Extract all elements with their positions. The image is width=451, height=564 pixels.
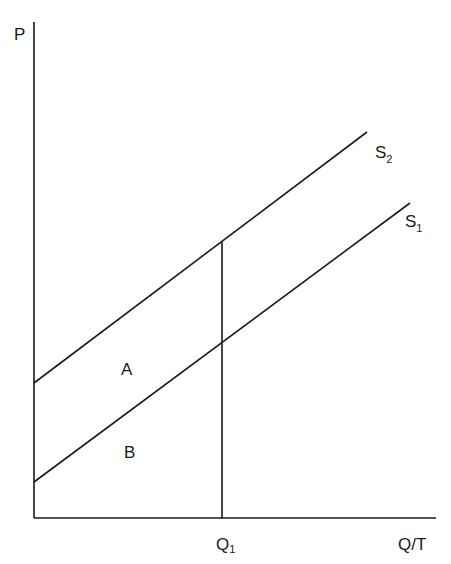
q1-label-sub: 1	[229, 543, 235, 555]
q1-label: Q1	[216, 535, 235, 555]
s1-label-main: S	[405, 212, 416, 231]
s2-label-sub: 2	[386, 153, 392, 165]
s1-label: S1	[405, 212, 422, 234]
s2-label: S2	[375, 143, 392, 165]
x-axis-label: Q/T	[398, 535, 426, 554]
region-b-label: B	[124, 443, 135, 462]
supply-curve-s2	[34, 132, 367, 383]
s2-label-main: S	[375, 143, 386, 162]
y-axis-label: P	[14, 25, 25, 44]
region-a-label: A	[121, 360, 133, 379]
q1-label-main: Q	[216, 535, 229, 554]
supply-shift-diagram: P S2 S1 A B Q1 Q/T	[0, 0, 451, 564]
s1-label-sub: 1	[416, 222, 422, 234]
